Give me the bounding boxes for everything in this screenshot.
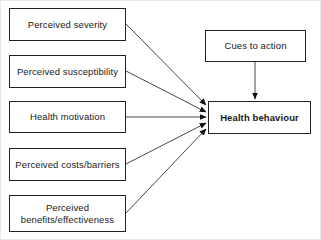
node-perceived-benefits-effectiveness[interactable]: Perceived benefits/effectiveness xyxy=(9,195,126,232)
node-perceived-costs-barriers[interactable]: Perceived costs/barriers xyxy=(9,148,126,181)
node-label: Cues to action xyxy=(224,40,286,52)
arrow-severity-to-behaviour xyxy=(126,24,206,105)
arrow-susceptibility-to-behaviour xyxy=(126,71,206,112)
health-belief-model-diagram: Perceived severity Perceived susceptibil… xyxy=(0,0,321,240)
node-health-motivation[interactable]: Health motivation xyxy=(9,101,126,133)
node-cues-to-action[interactable]: Cues to action xyxy=(205,30,306,62)
node-label: Perceived susceptibility xyxy=(17,66,118,78)
node-label: Perceived costs/barriers xyxy=(15,159,119,171)
node-label: Health motivation xyxy=(30,111,105,123)
node-health-behaviour[interactable]: Health behaviour xyxy=(208,101,311,134)
node-perceived-severity[interactable]: Perceived severity xyxy=(9,8,126,41)
node-label: Perceived severity xyxy=(28,19,107,31)
node-label: Health behaviour xyxy=(220,112,299,124)
node-label: Perceived benefits/effectiveness xyxy=(21,202,114,226)
arrow-costs-to-behaviour xyxy=(126,123,206,164)
arrow-benefits-to-behaviour xyxy=(126,129,206,213)
node-perceived-susceptibility[interactable]: Perceived susceptibility xyxy=(9,55,126,88)
